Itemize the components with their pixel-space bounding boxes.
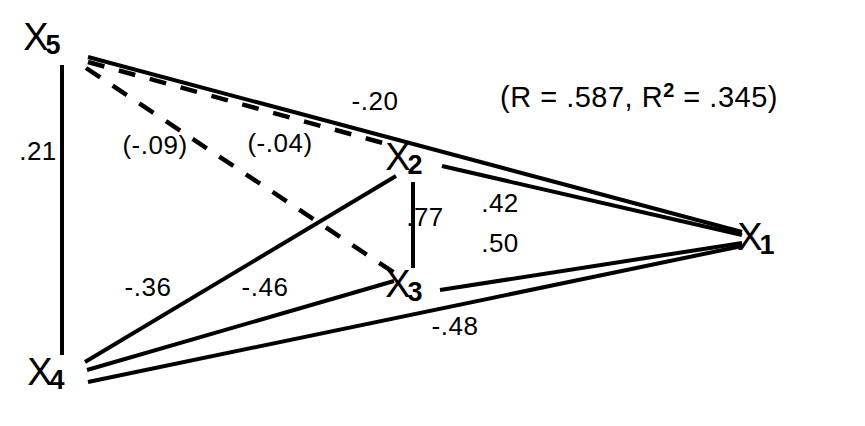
node-x5: X5: [23, 16, 60, 60]
statistics-annotation: (R = .587, R2 = .345): [500, 79, 778, 113]
edge-x5-x4-coefficient-label: .21: [19, 136, 57, 166]
node-x4-subscript: 4: [49, 365, 64, 395]
edge-x2-x1-coefficient-label: .42: [481, 188, 519, 218]
edge-x5-x2-coefficient-label: (-.04): [247, 128, 312, 158]
r-statistics-prefix: (R = .587, R: [500, 81, 663, 113]
path-diagram-figure: -.20(-.04)(-.09).21-.36-.46-.48.77.42.50…: [0, 0, 865, 426]
edge-x4-x2: [85, 176, 396, 362]
edge-x5-x1-coefficient-label: -.20: [352, 86, 399, 116]
r-statistics-text: (R = .587, R2 = .345): [500, 79, 778, 113]
edge-x4-x3-coefficient-label: -.46: [242, 272, 289, 302]
node-x3-subscript: 3: [407, 277, 422, 307]
edge-x2-x3-coefficient-label: .77: [406, 202, 444, 232]
edge-x4-x2-coefficient-label: -.36: [125, 272, 172, 302]
edge-x3-x1-coefficient-label: .50: [481, 228, 519, 258]
r-statistics-suffix: = .345): [675, 81, 778, 113]
edge-x4-x1-coefficient-label: -.48: [432, 311, 479, 341]
node-x2: X2: [385, 136, 422, 180]
nodes-layer: X1X2X3X4X5: [23, 16, 774, 395]
edge-x5-x3-coefficient-label: (-.09): [122, 130, 187, 160]
node-x2-subscript: 2: [407, 150, 422, 180]
edge-labels-layer: -.20(-.04)(-.09).21-.36-.46-.48.77.42.50: [19, 86, 519, 341]
node-x3: X3: [385, 263, 422, 307]
path-diagram-canvas: -.20(-.04)(-.09).21-.36-.46-.48.77.42.50…: [0, 0, 865, 426]
node-x4: X4: [27, 351, 64, 395]
node-x1: X1: [737, 216, 774, 260]
node-x1-subscript: 1: [759, 230, 774, 260]
r-squared-exponent: 2: [663, 79, 675, 101]
node-x5-subscript: 5: [45, 30, 60, 60]
